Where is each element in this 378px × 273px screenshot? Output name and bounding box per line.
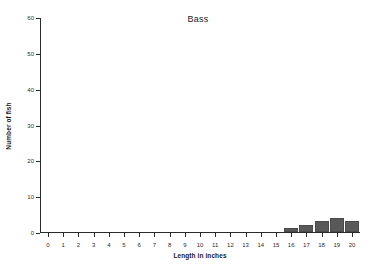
x-tick-label: 4 [107,242,110,248]
x-tick-label: 11 [212,242,218,248]
bar [315,221,329,232]
x-tick [352,233,353,237]
x-tick [48,233,49,237]
y-tick-label: 40 [27,87,34,93]
x-tick-label: 6 [138,242,141,248]
x-tick [109,233,110,237]
x-tick-label: 12 [227,242,234,248]
y-tick-label: 20 [27,158,34,164]
x-tick [124,233,125,237]
x-tick-label: 18 [318,242,325,248]
y-tick-label: 60 [27,15,34,21]
y-tick-label: 30 [27,123,34,129]
bar [299,225,313,232]
x-tick-label: 3 [92,242,95,248]
x-tick-label: 19 [333,242,340,248]
x-tick [306,233,307,237]
plot-area: 0102030405060 01234567891011121314151617… [40,18,360,233]
x-tick-label: 20 [349,242,356,248]
x-tick-label: 17 [303,242,310,248]
y-tick-label: 50 [27,51,34,57]
x-tick [291,233,292,237]
x-tick [94,233,95,237]
x-tick-label: 7 [153,242,156,248]
x-tick-label: 16 [288,242,295,248]
x-tick [276,233,277,237]
x-tick [322,233,323,237]
x-tick [200,233,201,237]
x-tick [337,233,338,237]
x-tick [246,233,247,237]
x-tick-label: 9 [183,242,186,248]
bar [330,218,344,232]
y-tick [36,197,40,198]
x-tick-label: 1 [62,242,65,248]
y-tick [36,90,40,91]
x-tick-label: 15 [273,242,280,248]
bar [345,221,359,232]
x-tick [215,233,216,237]
x-tick-label: 5 [122,242,125,248]
y-tick-label: 10 [27,194,34,200]
bass-length-histogram: Bass 0102030405060 012345678910111213141… [0,0,378,273]
x-tick-label: 10 [197,242,204,248]
x-tick-label: 14 [257,242,264,248]
x-tick-label: 8 [168,242,171,248]
x-tick-label: 0 [46,242,49,248]
y-tick [36,233,40,234]
y-tick [36,18,40,19]
y-tick-label: 0 [31,230,34,236]
x-tick [261,233,262,237]
x-tick [63,233,64,237]
x-tick-label: 13 [242,242,249,248]
y-tick [36,126,40,127]
x-tick [154,233,155,237]
y-tick [36,54,40,55]
y-tick [36,161,40,162]
x-tick [185,233,186,237]
bar [284,228,298,232]
y-axis-title: Number of fish [5,102,12,149]
x-tick [230,233,231,237]
x-axis-title: Length in inches [40,252,360,259]
x-tick-label: 2 [77,242,80,248]
x-tick [139,233,140,237]
x-tick [78,233,79,237]
x-tick [170,233,171,237]
y-axis-line [40,18,41,233]
